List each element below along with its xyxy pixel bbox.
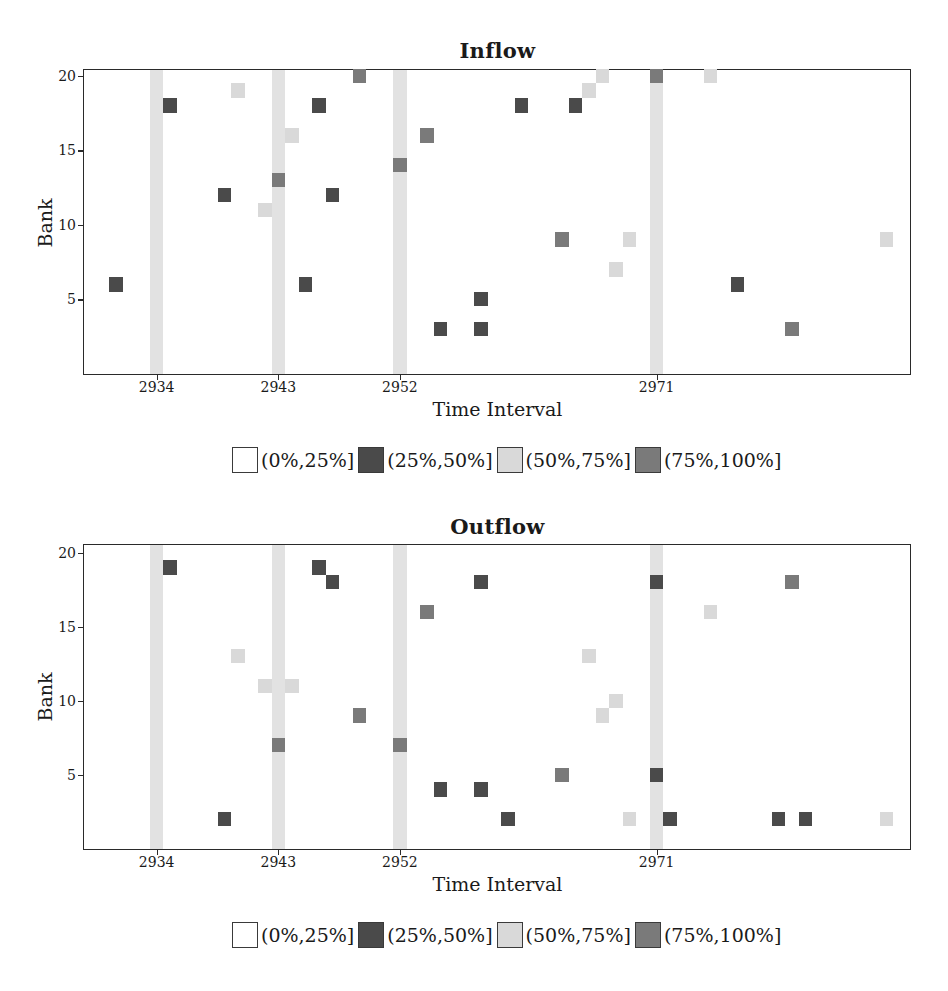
- y-tick: [78, 775, 83, 776]
- heatmap-cell: [704, 605, 718, 619]
- highlight-column: [393, 70, 407, 374]
- heatmap-cell: [731, 277, 745, 291]
- legend-label: (50%,75%]: [526, 924, 631, 946]
- heatmap-cell: [109, 277, 123, 291]
- x-tick-label: 2971: [639, 379, 675, 395]
- heatmap-cell: [299, 277, 313, 291]
- y-axis-label: Bank: [34, 198, 56, 247]
- legend-label: (75%,100%]: [664, 449, 781, 471]
- legend-label: (50%,75%]: [526, 449, 631, 471]
- heatmap-cell: [569, 98, 583, 112]
- legend-item: (25%,50%]: [358, 447, 496, 473]
- legend-swatch: [358, 922, 384, 948]
- legend-swatch: [232, 922, 258, 948]
- heatmap-cell: [163, 98, 177, 112]
- x-axis-label: Time Interval: [83, 873, 912, 895]
- y-tick: [78, 701, 83, 702]
- legend-item: (75%,100%]: [635, 922, 785, 948]
- heatmap-cell: [434, 322, 448, 336]
- heatmap-cell: [434, 782, 448, 796]
- x-tick-label: 2934: [139, 379, 175, 395]
- legend-label: (0%,25%]: [261, 449, 354, 471]
- highlight-column: [272, 545, 286, 849]
- heatmap-cell: [474, 575, 488, 589]
- legend: (0%,25%](25%,50%](50%,75%](75%,100%]: [232, 445, 785, 475]
- y-tick-label: 5: [67, 767, 76, 783]
- y-tick: [78, 150, 83, 151]
- legend-item: (50%,75%]: [497, 922, 635, 948]
- heatmap-cell: [393, 738, 407, 752]
- heatmap-cell: [880, 232, 894, 246]
- highlight-column: [650, 545, 664, 849]
- legend-swatch: [635, 922, 661, 948]
- x-tick-label: 2971: [639, 854, 675, 870]
- heatmap-cell: [285, 679, 299, 693]
- legend-swatch: [497, 447, 523, 473]
- plot-area: 51015202934294329522971: [83, 69, 911, 375]
- heatmap-cell: [326, 188, 340, 202]
- heatmap-cell: [609, 262, 623, 276]
- heatmap-cell: [420, 128, 434, 142]
- heatmap-cell: [582, 649, 596, 663]
- highlight-column: [150, 545, 164, 849]
- heatmap-cell: [799, 812, 813, 826]
- heatmap-cell: [785, 322, 799, 336]
- highlight-column: [272, 70, 286, 374]
- y-tick: [78, 627, 83, 628]
- x-tick-label: 2952: [382, 379, 418, 395]
- legend-item: (75%,100%]: [635, 447, 785, 473]
- heatmap-cell: [258, 679, 272, 693]
- heatmap-cell: [353, 69, 367, 83]
- heatmap-cell: [272, 738, 286, 752]
- chart-title: Inflow: [83, 38, 912, 63]
- heatmap-cell: [663, 812, 677, 826]
- y-tick-label: 20: [58, 68, 76, 84]
- y-axis-label: Bank: [34, 672, 56, 721]
- y-tick-label: 15: [58, 619, 76, 635]
- legend-label: (25%,50%]: [387, 924, 492, 946]
- y-tick-label: 10: [58, 693, 76, 709]
- heatmap-cell: [272, 173, 286, 187]
- legend-label: (75%,100%]: [664, 924, 781, 946]
- heatmap-cell: [650, 575, 664, 589]
- heatmap-cell: [609, 694, 623, 708]
- heatmap-cell: [218, 188, 232, 202]
- legend-swatch: [635, 447, 661, 473]
- heatmap-cell: [880, 812, 894, 826]
- heatmap-cell: [596, 69, 610, 83]
- x-tick-label: 2934: [139, 854, 175, 870]
- heatmap-cell: [474, 782, 488, 796]
- heatmap-cell: [623, 812, 637, 826]
- y-tick-label: 5: [67, 291, 76, 307]
- legend-label: (25%,50%]: [387, 449, 492, 471]
- highlight-column: [650, 70, 664, 374]
- heatmap-cell: [515, 98, 529, 112]
- legend: (0%,25%](25%,50%](50%,75%](75%,100%]: [232, 920, 785, 950]
- y-tick: [78, 553, 83, 554]
- heatmap-cell: [650, 768, 664, 782]
- heatmap-cell: [312, 560, 326, 574]
- plot-area: 51015202934294329522971: [83, 544, 911, 850]
- x-tick-label: 2952: [382, 854, 418, 870]
- legend-label: (0%,25%]: [261, 924, 354, 946]
- heatmap-cell: [474, 322, 488, 336]
- highlight-column: [150, 70, 164, 374]
- heatmap-cell: [772, 812, 786, 826]
- heatmap-cell: [285, 128, 299, 142]
- legend-item: (0%,25%]: [232, 447, 358, 473]
- heatmap-cell: [231, 649, 245, 663]
- heatmap-cell: [163, 560, 177, 574]
- legend-item: (50%,75%]: [497, 447, 635, 473]
- x-tick-label: 2943: [260, 379, 296, 395]
- y-tick-label: 20: [58, 545, 76, 561]
- legend-swatch: [232, 447, 258, 473]
- heatmap-cell: [582, 83, 596, 97]
- y-tick-label: 15: [58, 142, 76, 158]
- heatmap-cell: [623, 232, 637, 246]
- heatmap-cell: [596, 708, 610, 722]
- legend-swatch: [497, 922, 523, 948]
- y-tick: [78, 225, 83, 226]
- heatmap-cell: [555, 232, 569, 246]
- legend-item: (0%,25%]: [232, 922, 358, 948]
- x-axis-label: Time Interval: [83, 398, 912, 420]
